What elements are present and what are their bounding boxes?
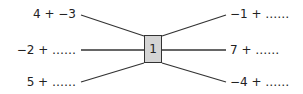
- center-value-box: 1: [144, 35, 162, 63]
- left-expression-2: −2 + ……: [0, 43, 76, 57]
- right-expression-1: −1 + ……: [230, 7, 289, 21]
- line-top-right: [162, 15, 226, 36]
- line-bottom-right: [162, 63, 226, 82]
- right-expression-2: 7 + ……: [230, 43, 279, 57]
- line-top-left: [81, 15, 144, 36]
- line-bottom-left: [81, 63, 144, 82]
- right-expression-3: −4 + ……: [230, 75, 289, 89]
- left-expression-3: 5 + ……: [0, 75, 76, 89]
- center-value: 1: [149, 42, 157, 56]
- left-expression-1: 4 + −3: [0, 7, 76, 21]
